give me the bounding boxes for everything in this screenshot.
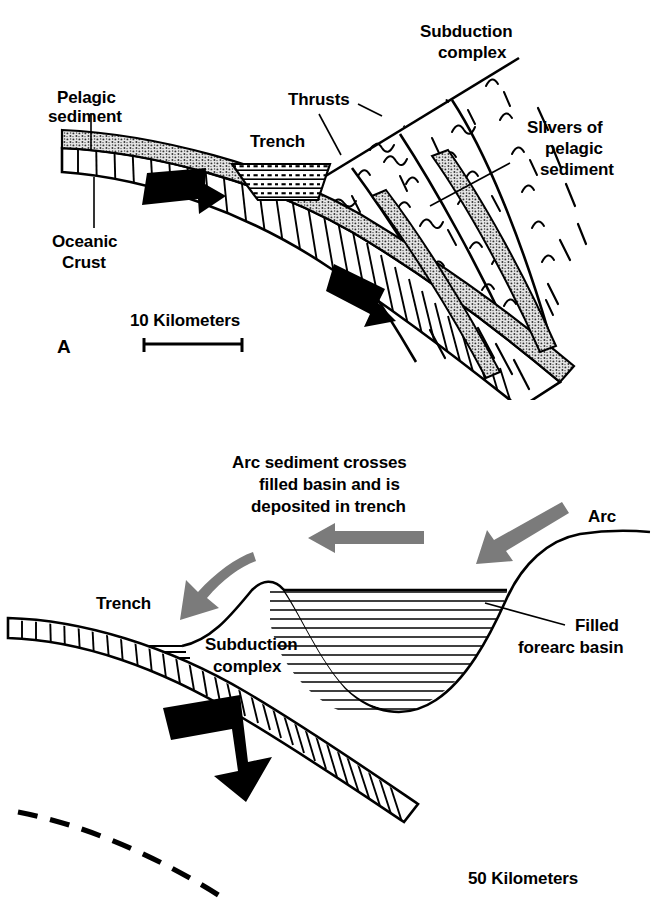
label-pelagic-sediment-line2: sediment bbox=[48, 107, 122, 126]
label-subduction-complex-b-line2: complex bbox=[213, 657, 282, 676]
label-pelagic-sediment-line1: Pelagic bbox=[57, 88, 116, 107]
label-thrusts: Thrusts bbox=[288, 90, 350, 109]
label-oceanic-crust-line2: Crust bbox=[62, 253, 106, 272]
label-filled-forearc-basin-line2: forearc basin bbox=[518, 638, 623, 657]
panel-letter-a: A bbox=[57, 336, 71, 357]
scale-label-panel-a: 10 Kilometers bbox=[130, 311, 240, 330]
scale-label-panel-b: 50 Kilometers bbox=[468, 869, 578, 888]
label-trench-b: Trench bbox=[96, 594, 151, 613]
label-subduction-complex-a-line1: Subduction bbox=[420, 22, 512, 41]
label-slivers-line3: sediment bbox=[540, 160, 614, 179]
label-subduction-complex-a-line2: complex bbox=[438, 43, 507, 62]
label-trench-a: Trench bbox=[250, 132, 305, 151]
geology-cross-section-figure: Pelagic sediment Oceanic Crust Trench Th… bbox=[0, 0, 659, 904]
label-slivers-line1: Slivers of bbox=[527, 118, 603, 137]
label-slivers-line2: pelagic bbox=[545, 139, 603, 158]
caption-line3: deposited in trench bbox=[251, 497, 406, 516]
label-filled-forearc-basin-line1: Filled bbox=[575, 616, 619, 635]
label-subduction-complex-b-line1: Subduction bbox=[205, 635, 297, 654]
label-arc: Arc bbox=[588, 507, 616, 526]
caption-line2: filled basin and is bbox=[259, 475, 400, 494]
caption-line1: Arc sediment crosses bbox=[232, 453, 407, 472]
label-oceanic-crust-line1: Oceanic bbox=[52, 232, 117, 251]
figure-root: Pelagic sediment Oceanic Crust Trench Th… bbox=[0, 0, 659, 904]
